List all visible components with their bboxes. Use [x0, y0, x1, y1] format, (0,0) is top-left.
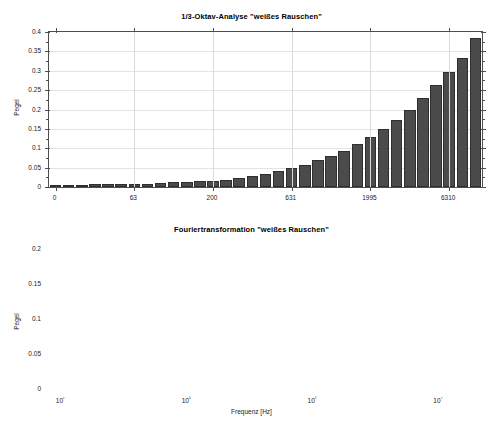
y-tick-major: [45, 90, 50, 91]
y-tick-minor-right: [482, 80, 485, 81]
y-tick-minor-right: [482, 42, 485, 43]
bar: [338, 151, 350, 187]
y-tick-major-right: [481, 110, 486, 111]
gridline-vertical: [370, 32, 371, 187]
panel-third-octave: 1/3-Oktav-Analyse "weißes Rauschen" Pege…: [0, 0, 503, 218]
x-tick-label: 63: [130, 194, 137, 201]
bar: [168, 182, 180, 187]
x-tick-label: 1995: [362, 194, 376, 201]
y-tick-major: [45, 32, 50, 33]
x-tick-label-exponent: ⁴: [441, 396, 443, 401]
bar: [457, 58, 469, 187]
y-tick-major: [45, 168, 50, 169]
y-tick-label: 0.05: [6, 163, 41, 170]
x-tick-label-exponent: ¹: [63, 396, 65, 401]
y-tick-label: 0.3: [6, 66, 41, 73]
bar: [63, 185, 75, 187]
bar: [89, 184, 101, 187]
y-tick-minor: [46, 158, 49, 159]
gridline-vertical: [213, 32, 214, 187]
gridline-vertical: [292, 32, 293, 187]
panel-fourier: Fouriertransformation "weißes Rauschen" …: [0, 218, 503, 437]
x-tick-major: [56, 186, 57, 191]
bar: [247, 176, 259, 187]
y-tick-minor: [46, 100, 49, 101]
x-tick-label: 10³: [308, 396, 317, 404]
y-tick-label: 0.05: [6, 350, 41, 357]
y-tick-minor: [46, 80, 49, 81]
y-tick-label: 0: [6, 183, 41, 190]
y-tick-major: [45, 71, 50, 72]
y-tick-minor-right: [482, 177, 485, 178]
bar: [260, 174, 272, 187]
x-tick-label-exponent: ²: [189, 396, 191, 401]
y-tick-major-right: [481, 129, 486, 130]
y-tick-major-right: [481, 168, 486, 169]
bar: [352, 144, 364, 187]
y-tick-minor-right: [482, 158, 485, 159]
y-tick-major: [45, 129, 50, 130]
y-tick-minor: [46, 139, 49, 140]
bar: [325, 156, 337, 187]
y-tick-major: [45, 51, 50, 52]
bar: [417, 98, 429, 187]
bar: [430, 85, 442, 187]
y-tick-minor: [46, 42, 49, 43]
bar: [312, 160, 324, 187]
y-tick-major: [45, 110, 50, 111]
y-tick-major: [45, 187, 50, 188]
bar: [273, 171, 285, 187]
y-tick-major: [45, 148, 50, 149]
y-tick-minor-right: [482, 61, 485, 62]
y-tick-label: 0: [6, 385, 41, 392]
bar: [115, 184, 127, 187]
bar: [194, 181, 206, 187]
y-tick-label: 0.25: [6, 86, 41, 93]
y-tick-label: 0.15: [6, 280, 41, 287]
x-tick-major-top: [56, 28, 57, 33]
y-tick-major-right: [481, 90, 486, 91]
y-tick-minor-right: [482, 100, 485, 101]
y-tick-label: 0.4: [6, 28, 41, 35]
x-axis-label-fourier: Frequenz [Hz]: [0, 408, 503, 415]
bar: [299, 165, 311, 187]
y-tick-major-right: [481, 51, 486, 52]
y-tick-label: 0.15: [6, 124, 41, 131]
gridline-horizontal: [49, 71, 482, 72]
bar: [102, 184, 114, 187]
x-tick-label-exponent: ³: [315, 396, 317, 401]
x-tick-label: 0: [53, 194, 57, 201]
gridline-horizontal: [49, 90, 482, 91]
gridline-vertical: [449, 32, 450, 187]
y-tick-major-right: [481, 32, 486, 33]
bar: [391, 120, 403, 187]
y-tick-label: 0.1: [6, 144, 41, 151]
y-tick-major-right: [481, 71, 486, 72]
y-tick-major-right: [481, 148, 486, 149]
chart-title-fourier: Fouriertransformation "weißes Rauschen": [0, 225, 503, 234]
gridline-horizontal: [49, 51, 482, 52]
bar: [142, 184, 154, 187]
figure-canvas: 1/3-Oktav-Analyse "weißes Rauschen" Pege…: [0, 0, 503, 437]
x-tick-label: 10¹: [56, 396, 65, 404]
bar: [404, 110, 416, 188]
x-tick-label: 631: [285, 194, 296, 201]
y-tick-label: 0.2: [6, 245, 41, 252]
y-tick-minor: [46, 61, 49, 62]
x-tick-label: 10²: [182, 396, 191, 404]
bar: [76, 185, 88, 187]
bar: [233, 178, 245, 187]
y-tick-minor-right: [482, 119, 485, 120]
plot-area-third-octave: [48, 31, 483, 188]
bar: [155, 183, 167, 187]
y-tick-major-right: [481, 187, 486, 188]
y-tick-minor: [46, 119, 49, 120]
bar: [470, 38, 482, 187]
y-tick-minor-right: [482, 139, 485, 140]
bar: [181, 182, 193, 187]
gridline-vertical: [134, 32, 135, 187]
y-tick-label: 0.2: [6, 105, 41, 112]
y-tick-label: 0.35: [6, 47, 41, 54]
x-tick-label: 200: [207, 194, 218, 201]
bar: [220, 180, 232, 187]
